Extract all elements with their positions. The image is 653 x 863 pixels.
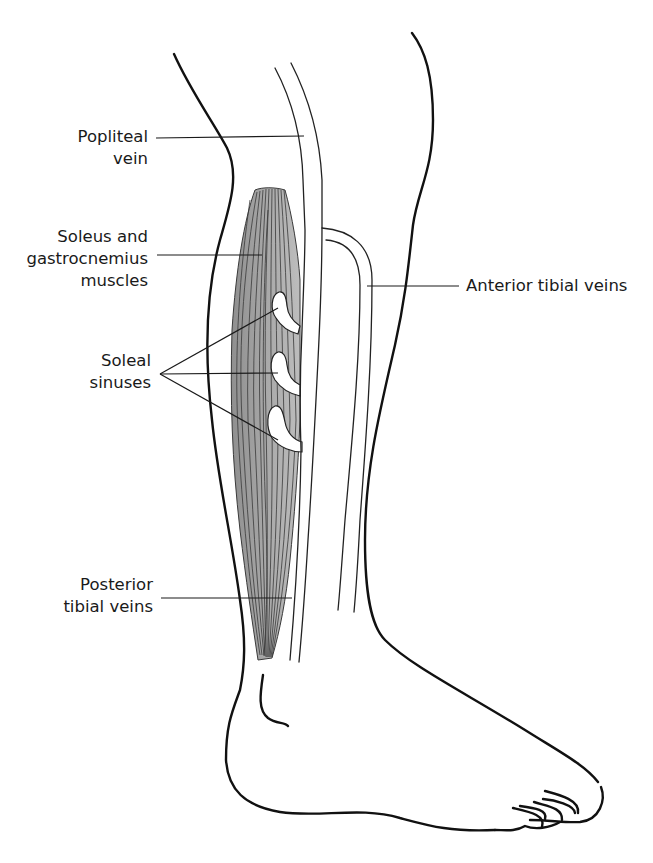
leader-popliteal-vein [156,136,304,138]
toe-5 [513,808,543,827]
label-soleus-line3: muscles [26,270,148,292]
label-soleal-sinuses: Soleal sinuses [90,350,151,394]
ankle-malleolus [261,675,288,726]
label-posterior-line2: tibial veins [63,596,153,618]
label-popliteal-vein: Popliteal vein [78,126,148,170]
anterior-leg-outline [365,33,598,782]
label-posterior-tibial-veins: Posterior tibial veins [63,574,153,618]
label-anterior-line1: Anterior tibial veins [466,275,627,297]
anterior-tibial-vein-inner [326,240,360,610]
label-posterior-line1: Posterior [63,574,153,596]
toe-sole-join [495,822,560,830]
label-soleus-line1: Soleus and [26,226,148,248]
label-soleus-line2: gastrocnemius [26,248,148,270]
posterior-leg-outline [174,54,495,830]
label-anterior-tibial-veins: Anterior tibial veins [466,275,627,297]
label-popliteal-vein-line2: vein [78,148,148,170]
label-soleus-gastrocnemius: Soleus and gastrocnemius muscles [26,226,148,292]
label-popliteal-vein-line1: Popliteal [78,126,148,148]
label-soleal-line2: sinuses [90,372,151,394]
label-soleal-line1: Soleal [90,350,151,372]
